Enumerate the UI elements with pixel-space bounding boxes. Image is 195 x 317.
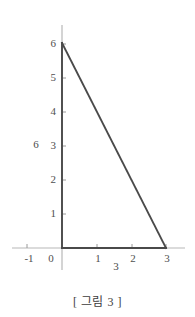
y-tick-label-2: 2 — [42, 174, 56, 185]
y-tick-label-6: 6 — [42, 38, 56, 49]
x-tick-label-2: 2 — [126, 253, 140, 264]
triangle-hypotenuse — [62, 43, 166, 248]
figure-caption: [ 그림 3 ] — [0, 292, 195, 310]
y-tick-label-1: 1 — [42, 208, 56, 219]
x-tick-label-1: 1 — [91, 253, 105, 264]
x-tick-label-3: 3 — [160, 253, 174, 264]
y-tick-label-5: 5 — [42, 72, 56, 83]
x-tick-label-minus1: -1 — [22, 253, 36, 264]
x-tick-label-0: 0 — [44, 253, 58, 264]
annotation-vertical-leg-length: 6 — [29, 139, 43, 150]
figure-container: 6 5 4 3 2 1 -1 0 1 2 3 6 3 [ 그림 3 ] — [0, 0, 195, 317]
y-tick-label-4: 4 — [42, 106, 56, 117]
y-tick-label-3: 3 — [42, 140, 56, 151]
annotation-horizontal-leg-length: 3 — [109, 261, 123, 272]
